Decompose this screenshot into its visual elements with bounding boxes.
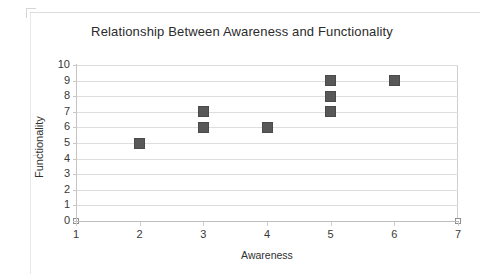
data-point-3-6[interactable]: [198, 122, 209, 133]
scatter-chart: Relationship Between Awareness and Funct…: [0, 0, 484, 280]
y-tick-mark-3: [73, 174, 77, 175]
x-tick-7: 7: [443, 228, 473, 240]
x-tick-2: 2: [125, 228, 155, 240]
x-tick-mark-4: [267, 222, 268, 226]
gridline-y-10: [76, 65, 458, 66]
gridline-y-4: [76, 159, 458, 160]
y-tick-mark-10: [73, 65, 77, 66]
y-tick-mark-6: [73, 127, 77, 128]
data-point-5-9[interactable]: [325, 75, 336, 86]
x-tick-4: 4: [252, 228, 282, 240]
y-axis-title: Functionality: [33, 116, 45, 178]
x-tick-3: 3: [188, 228, 218, 240]
y-tick-mark-9: [73, 81, 77, 82]
x-tick-mark-3: [203, 222, 204, 226]
y-tick-8: 8: [44, 89, 70, 101]
y-tick-0: 0: [44, 214, 70, 226]
y-tick-5: 5: [44, 136, 70, 148]
data-point-3-7[interactable]: [198, 106, 209, 117]
y-tick-1: 1: [44, 198, 70, 210]
y-tick-mark-5: [73, 143, 77, 144]
gridline-y-9: [76, 81, 458, 82]
gridline-y-2: [76, 190, 458, 191]
y-tick-7: 7: [44, 105, 70, 117]
data-point-4-6[interactable]: [262, 122, 273, 133]
y-tick-2: 2: [44, 183, 70, 195]
data-point-5-8[interactable]: [325, 91, 336, 102]
data-point-6-9[interactable]: [389, 75, 400, 86]
x-tick-mark-7: [458, 222, 459, 226]
y-tick-mark-7: [73, 112, 77, 113]
y-tick-9: 9: [44, 74, 70, 86]
gridline-y-8: [76, 96, 458, 97]
y-tick-6: 6: [44, 120, 70, 132]
x-tick-mark-2: [140, 222, 141, 226]
gridline-y-1: [76, 205, 458, 206]
gridline-y-3: [76, 174, 458, 175]
y-tick-mark-2: [73, 190, 77, 191]
data-point-2-5[interactable]: [134, 138, 145, 149]
x-tick-mark-5: [331, 222, 332, 226]
gridline-y-7: [76, 112, 458, 113]
y-tick-4: 4: [44, 152, 70, 164]
x-tick-6: 6: [379, 228, 409, 240]
data-point-5-7[interactable]: [325, 106, 336, 117]
chart-title: Relationship Between Awareness and Funct…: [0, 24, 484, 39]
x-tick-mark-6: [394, 222, 395, 226]
y-tick-mark-8: [73, 96, 77, 97]
plot-area: [76, 65, 458, 221]
y-tick-mark-4: [73, 159, 77, 160]
y-axis-title-wrapper: Functionality: [33, 178, 47, 179]
y-tick-mark-1: [73, 205, 77, 206]
y-tick-10: 10: [44, 58, 70, 70]
x-axis-title: Awareness: [76, 249, 458, 261]
y-tick-3: 3: [44, 167, 70, 179]
x-tick-1: 1: [61, 228, 91, 240]
x-tick-5: 5: [316, 228, 346, 240]
x-tick-mark-1: [76, 222, 77, 226]
